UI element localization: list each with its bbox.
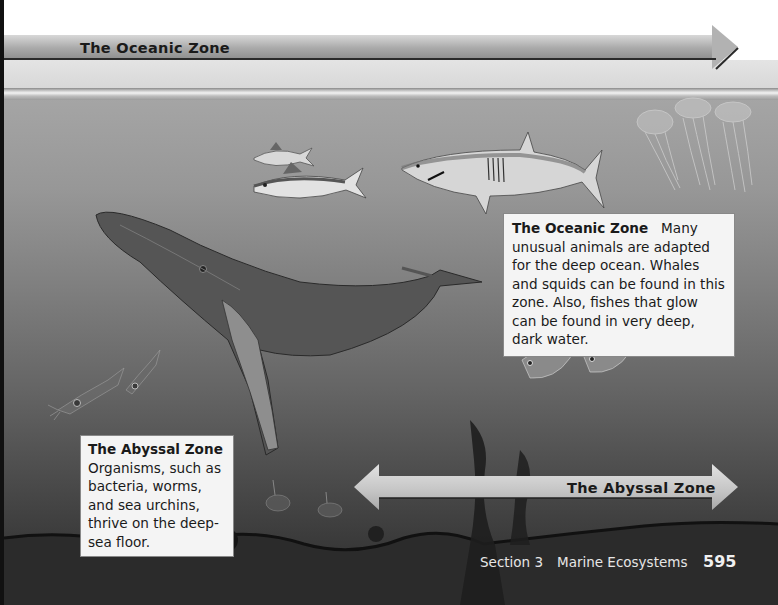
oceanic-callout-body: Many unusual animals are adapted for the… bbox=[512, 220, 725, 347]
squid-icon bbox=[48, 350, 160, 420]
abyssal-zone-callout: The Abyssal Zone Organisms, such as bact… bbox=[81, 436, 233, 556]
jellyfish-icon bbox=[637, 98, 752, 192]
textbook-page: The Oceanic Zone bbox=[0, 0, 778, 605]
footer-section-label: Section 3 bbox=[480, 554, 543, 570]
footer-chapter-title: Marine Ecosystems bbox=[557, 554, 687, 570]
abyssal-callout-body: Organisms, such as bacteria, worms, and … bbox=[88, 459, 227, 552]
abyssal-callout-title: The Abyssal Zone bbox=[88, 440, 227, 459]
oceanic-callout-title: The Oceanic Zone bbox=[512, 220, 648, 236]
oceanic-zone-label: The Oceanic Zone bbox=[80, 40, 230, 56]
tuna-icon bbox=[254, 142, 314, 166]
hydrothermal-vent-icon bbox=[460, 420, 530, 605]
abyssal-zone-label: The Abyssal Zone bbox=[567, 480, 716, 496]
deep-sea-fish-icon bbox=[266, 480, 342, 517]
page-number: 595 bbox=[703, 552, 736, 571]
oceanic-zone-callout: The Oceanic Zone Many unusual animals ar… bbox=[504, 214, 734, 356]
humpback-whale-icon bbox=[96, 212, 482, 455]
page-edge bbox=[0, 0, 4, 605]
tuna-icon bbox=[254, 162, 366, 198]
shark-icon bbox=[402, 132, 604, 214]
